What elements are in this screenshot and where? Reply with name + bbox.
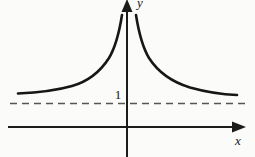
y-axis-arrowhead: [122, 0, 133, 12]
curve-left-branch: [18, 15, 122, 94]
graph-canvas: 1 x y: [0, 0, 255, 157]
y-tick-label-1: 1: [115, 87, 122, 102]
x-axis-arrowhead: [232, 122, 246, 133]
curve-right-branch: [136, 15, 237, 95]
x-axis-label: x: [234, 133, 241, 148]
graph-figure: 1 x y: [0, 0, 255, 157]
y-axis-label: y: [135, 0, 143, 10]
